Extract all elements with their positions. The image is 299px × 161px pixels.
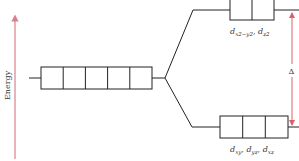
delta-symbol: Δ (289, 67, 295, 76)
energy-label: Energy (3, 70, 12, 100)
splitting-lines (165, 10, 230, 127)
t2g-level (220, 116, 299, 138)
orbital-box-t2g (220, 116, 288, 138)
delta-splitting-arrow: Δ (289, 13, 295, 125)
degenerate-d-level (29, 67, 165, 89)
t2g-orbital-label: dxy, dyz, dxz (230, 145, 274, 156)
crystal-field-diagram: Energy dx2−y2, dz2 dxy, dyz, dxz Δ (0, 0, 299, 161)
eg-orbital-label: dx2−y2, dz2 (230, 27, 270, 38)
energy-axis: Energy (3, 18, 15, 159)
orbital-box-degenerate (41, 67, 152, 89)
eg-level (230, 0, 299, 20)
